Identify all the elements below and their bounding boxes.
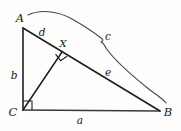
brace-hypotenuse-c: [28, 12, 166, 103]
geometry-diagram: A B C X b a d e c: [0, 0, 181, 131]
segment-hypotenuse: [23, 28, 160, 111]
side-label-d: d: [39, 26, 46, 38]
side-label-e: e: [105, 66, 111, 78]
vertex-label-b: B: [163, 105, 172, 119]
side-label-b: b: [11, 69, 18, 81]
segment-leg-a: [23, 110, 160, 111]
point-label-x: X: [58, 38, 67, 49]
vertex-label-a: A: [15, 11, 24, 25]
vertex-label-c: C: [9, 105, 18, 119]
triangle-figure: A B C X b a d e c: [0, 0, 181, 131]
brace-label-c: c: [105, 30, 111, 42]
side-label-a: a: [77, 114, 83, 126]
